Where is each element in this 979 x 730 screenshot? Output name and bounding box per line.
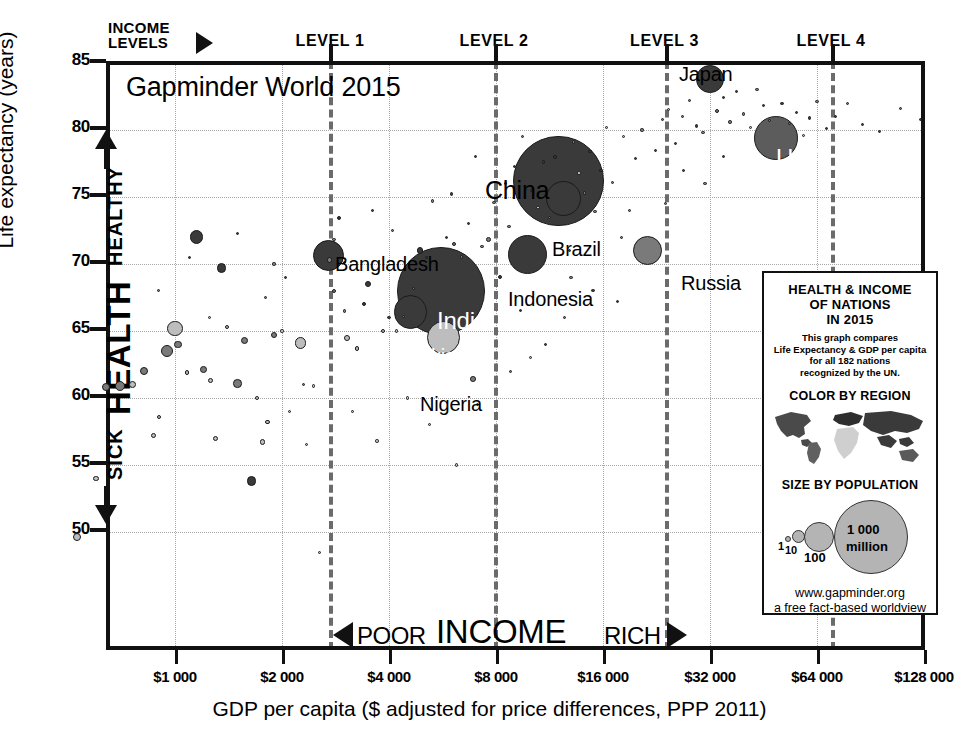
data-point [513, 165, 516, 168]
size-label-100: 100 [804, 550, 826, 565]
data-point [375, 439, 378, 442]
data-point [640, 128, 643, 131]
x-axis-title: GDP per capita ($ adjusted for price dif… [0, 697, 979, 721]
data-point [846, 102, 849, 105]
x-tick-16000 [603, 650, 606, 664]
size-label-10: 10 [785, 544, 797, 556]
data-point [577, 171, 580, 174]
data-point [878, 130, 881, 133]
data-point [825, 127, 828, 130]
data-point [688, 99, 691, 102]
data-point [755, 88, 758, 91]
data-point [355, 346, 360, 351]
data-point [387, 316, 391, 320]
level-boundary-tick-2 [494, 44, 498, 62]
legend-title-line-3: IN 2015 [764, 312, 936, 327]
size-bubble-1 [785, 536, 791, 542]
data-point [599, 169, 602, 172]
x-tick-label-128000: $128 000 [862, 668, 979, 685]
x-tick-8000 [496, 650, 499, 664]
x-tick-32000 [710, 650, 713, 664]
data-point [553, 155, 557, 159]
data-point [544, 343, 547, 346]
data-point [445, 236, 448, 239]
data-point [332, 289, 336, 293]
legend-title: HEALTH & INCOME OF NATIONS IN 2015 [764, 282, 936, 327]
data-point [391, 229, 394, 232]
y-tick-label-85: 85 [44, 50, 90, 70]
data-point [569, 276, 572, 279]
data-point [381, 329, 386, 334]
gapminder-chart: INCOME LEVELS LEVEL 1 LEVEL 2 LEVEL 3 LE… [0, 0, 979, 730]
data-point [371, 209, 374, 212]
data-point [563, 316, 566, 319]
x-tick-64000 [817, 650, 820, 664]
data-point [593, 210, 596, 213]
x-tick-label-64000: $64 000 [757, 668, 877, 685]
data-point [588, 150, 591, 153]
data-point [236, 232, 239, 235]
data-point [802, 134, 805, 137]
data-point [161, 345, 173, 357]
data-point [546, 181, 581, 216]
data-point [674, 142, 677, 145]
data-point [327, 257, 332, 262]
data-point [572, 140, 575, 143]
data-point [344, 335, 350, 341]
data-point [351, 410, 354, 413]
data-point [395, 329, 398, 332]
data-point [861, 123, 864, 126]
x-tick-4000 [389, 650, 392, 664]
legend-size-scale: 1 10 100 1 000 million [764, 496, 936, 582]
legend-footer: www.gapminder.org a free fact-based worl… [764, 586, 936, 616]
data-point [521, 135, 524, 138]
data-point [102, 383, 110, 391]
data-point [622, 135, 625, 138]
data-point [529, 356, 532, 359]
y-tick-85 [90, 59, 106, 63]
point-label-china: China [485, 176, 549, 205]
data-point [151, 433, 157, 439]
data-point [808, 116, 811, 119]
y-tick-label-80: 80 [44, 117, 90, 137]
data-point [634, 157, 637, 160]
data-point [611, 181, 614, 184]
data-point [583, 191, 586, 194]
income-levels-caption: INCOME LEVELS [108, 20, 170, 50]
data-point [728, 120, 732, 124]
data-point [157, 289, 160, 292]
data-point [394, 295, 428, 329]
data-point [305, 443, 308, 446]
data-point [742, 112, 745, 115]
data-point [217, 263, 226, 272]
data-point [548, 216, 551, 219]
data-point [157, 415, 161, 419]
point-label-usa: USA [776, 144, 825, 172]
data-point [200, 366, 207, 373]
y-tick-label-60: 60 [44, 385, 90, 405]
data-point [480, 245, 483, 248]
data-point [715, 109, 719, 113]
data-point [486, 237, 491, 242]
size-label-1: 1 [778, 540, 784, 552]
data-point [795, 111, 798, 114]
data-point [284, 276, 287, 279]
data-point [762, 104, 765, 107]
data-point [507, 225, 510, 228]
data-point [362, 302, 366, 306]
data-point [536, 206, 539, 209]
data-point [815, 100, 818, 103]
data-point [428, 423, 431, 426]
data-point [470, 376, 476, 382]
legend-color-heading: COLOR BY REGION [764, 389, 936, 403]
data-point [225, 325, 229, 329]
data-point [280, 329, 283, 332]
data-point [661, 118, 664, 121]
data-point [780, 102, 783, 105]
data-point [312, 384, 315, 387]
point-label-india: India [437, 307, 488, 335]
data-point [295, 337, 306, 348]
data-point [115, 381, 125, 391]
data-point [474, 155, 477, 158]
data-point [337, 216, 341, 220]
